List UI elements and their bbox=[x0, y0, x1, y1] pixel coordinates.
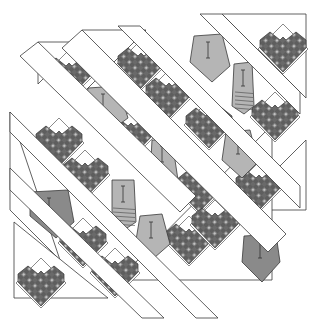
quilt-diagram bbox=[0, 0, 333, 320]
striped-tie-icon bbox=[232, 62, 254, 114]
tie-icon bbox=[190, 34, 230, 82]
